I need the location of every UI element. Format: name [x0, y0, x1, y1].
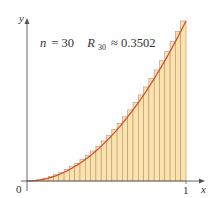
- svg-text:n = 30 R: n = 30 R 30 ≈ 0.3502: [40, 36, 155, 53]
- chart-canvas: y x 0 1 n = 30 R 30 ≈ 0.3502: [0, 0, 211, 198]
- riemann-bar: [138, 95, 143, 181]
- riemann-bar: [107, 136, 112, 182]
- riemann-bar: [117, 123, 122, 181]
- riemann-bar: [165, 51, 170, 181]
- r-subscript: 30: [98, 43, 106, 52]
- riemann-bar: [101, 141, 106, 181]
- riemann-sum-chart: y x 0 1 n = 30 R 30 ≈ 0.3502: [0, 0, 211, 198]
- n-value: = 30: [51, 36, 74, 50]
- riemann-bar: [96, 146, 101, 181]
- riemann-bar: [175, 32, 180, 182]
- r-value: ≈ 0.3502: [111, 36, 155, 50]
- y-axis-label: y: [18, 12, 24, 24]
- riemann-bar: [144, 87, 149, 181]
- riemann-bar: [128, 110, 133, 181]
- riemann-bar: [170, 42, 175, 181]
- x-axis-label: x: [200, 183, 206, 195]
- sum-annotation: n = 30 R 30 ≈ 0.3502: [40, 36, 155, 53]
- riemann-bar: [122, 117, 127, 181]
- riemann-bar: [154, 70, 159, 181]
- x-tick-label-0: 0: [16, 183, 22, 195]
- riemann-bar: [160, 61, 165, 181]
- riemann-bar: [112, 130, 117, 181]
- n-symbol: n: [40, 36, 46, 50]
- riemann-bar: [149, 79, 154, 181]
- riemann-bar: [181, 21, 186, 181]
- r-symbol: R: [86, 36, 95, 50]
- y-axis-arrow-icon: [25, 18, 30, 24]
- riemann-bar: [133, 103, 138, 181]
- x-tick-label-1: 1: [183, 184, 189, 196]
